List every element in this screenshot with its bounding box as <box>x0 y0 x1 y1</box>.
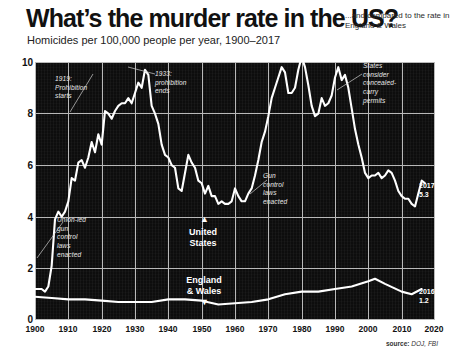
x-tick-1960: 1960 <box>226 324 245 334</box>
chart-header: What’s the murder rate in the US? ...and… <box>0 0 455 52</box>
end-label-us-year: 2017 <box>419 182 435 191</box>
x-tick-1900: 1900 <box>26 324 45 334</box>
end-label-ew-value: 1.2 <box>419 297 435 306</box>
leader-union-gun-laws <box>37 222 63 258</box>
page-title: What’s the murder rate in the US? <box>26 6 398 31</box>
chart-subtitle: Homicides per 100,000 people per year, 1… <box>27 34 280 46</box>
x-tick-2000: 2000 <box>359 324 378 334</box>
series-pointer-ew-down: ▼ <box>200 298 209 307</box>
series-label-us-line2: States <box>175 238 231 249</box>
x-tick-1970: 1970 <box>259 324 278 334</box>
end-label-ew-year: 2016 <box>419 288 435 297</box>
x-tick-1920: 1920 <box>93 324 112 334</box>
chart-plot-area: 1919: Prohibition starts 1933: prohibiti… <box>35 62 435 320</box>
x-tick-1940: 1940 <box>159 324 178 334</box>
infographic-root: What’s the murder rate in the US? ...and… <box>0 0 455 359</box>
end-label-us-2017: 2017 5.3 <box>419 182 435 200</box>
end-label-ew-2016: 2016 1.2 <box>419 288 435 306</box>
x-tick-2010: 2010 <box>393 324 412 334</box>
header-kicker: ...and compared to the rate in England &… <box>345 11 453 31</box>
x-tick-2020: 2020 <box>425 324 444 334</box>
x-tick-1910: 1910 <box>59 324 78 334</box>
leader-prohibition-starts <box>70 74 93 112</box>
source-value: DOJ, FBI <box>411 340 438 347</box>
source-note: source: DOJ, FBI <box>386 340 438 347</box>
x-tick-1980: 1980 <box>293 324 312 334</box>
leader-gun-control-laws <box>250 180 267 194</box>
end-label-us-value: 5.3 <box>419 191 435 200</box>
y-tick-6: 6 <box>9 160 33 171</box>
x-tick-1990: 1990 <box>326 324 345 334</box>
x-tick-1950: 1950 <box>193 324 212 334</box>
y-tick-0: 0 <box>9 314 33 325</box>
series-label-us-line1: United <box>175 227 231 238</box>
leader-prohibition-ends <box>128 67 155 74</box>
series-pointer-us-up: ▲ <box>200 215 209 224</box>
y-tick-8: 8 <box>9 108 33 119</box>
y-tick-2: 2 <box>9 263 33 274</box>
y-tick-10: 10 <box>9 57 33 68</box>
series-label-england-wales: England & Wales <box>171 275 237 296</box>
source-label: source: <box>386 340 409 347</box>
y-tick-4: 4 <box>9 212 33 223</box>
series-label-united-states: United States <box>175 227 231 248</box>
series-label-ew-line1: England <box>171 275 237 286</box>
x-tick-1930: 1930 <box>126 324 145 334</box>
leader-concealed-carry <box>337 74 362 90</box>
series-label-ew-line2: & Wales <box>171 286 237 297</box>
